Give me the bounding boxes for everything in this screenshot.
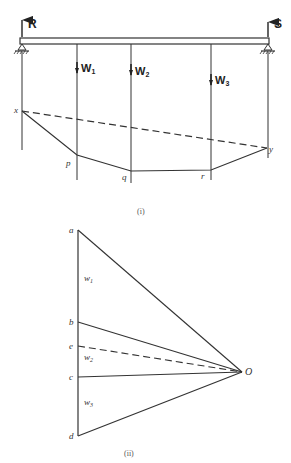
reaction-s-label: S bbox=[274, 17, 282, 31]
ray-ob bbox=[78, 322, 242, 372]
point-q-label: q bbox=[122, 172, 127, 182]
figure-ii-caption: (ii) bbox=[124, 449, 134, 458]
point-p-label: p bbox=[65, 158, 71, 168]
ray-oc bbox=[78, 372, 242, 377]
point-a-label: a bbox=[69, 225, 74, 235]
point-e-label: e bbox=[69, 341, 73, 351]
ray-oe bbox=[78, 346, 242, 372]
load-w1-arrow bbox=[75, 62, 79, 74]
point-x-label: x bbox=[13, 105, 18, 115]
pole-o-label: O bbox=[245, 366, 252, 377]
space-diagram: R S W1 W2 W3 x p q r bbox=[13, 17, 282, 216]
closing-line bbox=[22, 111, 267, 148]
load-w1-label: W1 bbox=[81, 62, 95, 75]
reaction-r-label: R bbox=[28, 17, 37, 31]
point-y-label: y bbox=[268, 144, 273, 154]
segment-w3-label: w3 bbox=[84, 397, 93, 408]
force-polygon-diagram: a b e c d O w1 w2 w3 (ii) bbox=[69, 225, 252, 458]
segment-w1-label: w1 bbox=[84, 273, 93, 284]
ray-od bbox=[78, 372, 242, 436]
load-w2-label: W2 bbox=[135, 65, 149, 78]
point-b-label: b bbox=[69, 317, 74, 327]
ray-oa bbox=[78, 230, 242, 372]
point-r-label: r bbox=[201, 171, 205, 181]
beam bbox=[20, 38, 269, 44]
segment-w2-label: w2 bbox=[84, 352, 93, 363]
load-w2-arrow bbox=[129, 64, 133, 76]
point-c-label: c bbox=[69, 372, 73, 382]
figure-i-caption: (i) bbox=[137, 207, 145, 216]
point-d-label: d bbox=[69, 431, 74, 441]
load-w3-arrow bbox=[209, 74, 213, 86]
funicular-polygon-diagram: R S W1 W2 W3 x p q r bbox=[0, 0, 291, 463]
load-w3-label: W3 bbox=[215, 74, 229, 87]
funicular-polygon bbox=[22, 111, 267, 171]
